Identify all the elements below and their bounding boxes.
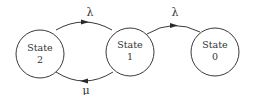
- arrowhead-right-icon: [81, 20, 89, 25]
- arrowhead-left-icon: [80, 79, 88, 84]
- arrowhead-right-icon: [170, 23, 178, 28]
- lambda-label-top-left: λ: [87, 6, 94, 19]
- state-diagram: State 2 State 1 State 0 λ μ λ: [0, 0, 254, 95]
- state-1-node: State 1: [106, 28, 154, 76]
- state-0-number: 0: [212, 51, 218, 62]
- state-1-label: State: [117, 39, 143, 50]
- diagram-svg: State 2 State 1 State 0 λ μ λ: [0, 0, 254, 95]
- lambda-label-top-right: λ: [172, 6, 179, 19]
- state-0-label: State: [202, 39, 228, 50]
- state-0-node: State 0: [191, 28, 239, 76]
- state-2-label: State: [27, 42, 53, 53]
- state-1-number: 1: [127, 51, 133, 62]
- mu-label-bottom: μ: [82, 84, 89, 95]
- state-2-node: State 2: [16, 30, 64, 78]
- state-2-number: 2: [37, 54, 43, 65]
